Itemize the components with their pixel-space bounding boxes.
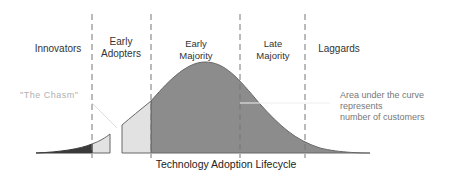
bell-curve-graphic — [0, 0, 452, 178]
diagram-title: Technology Adoption Lifecycle — [156, 158, 297, 170]
segment-label-early-majority: Early Majority — [179, 38, 212, 62]
segment-label-line: Late — [256, 38, 289, 50]
note-line: Area under the curve — [340, 90, 425, 101]
segment-label-late-majority: Late Majority — [256, 38, 289, 62]
segment-label-line: Innovators — [35, 43, 82, 55]
note-line: represents — [340, 101, 425, 112]
segment-label-laggards: Laggards — [318, 43, 360, 55]
segment-label-line: Early — [179, 38, 212, 50]
note-line: number of customers — [340, 112, 425, 123]
early-adopters-area-right — [122, 101, 151, 153]
adoption-lifecycle-diagram: Innovators Early Adopters Early Majority… — [0, 0, 452, 178]
segment-label-line: Majority — [179, 50, 212, 62]
segment-label-innovators: Innovators — [35, 43, 82, 55]
chasm-pointer-line — [92, 103, 117, 128]
segment-label-line: Laggards — [318, 43, 360, 55]
segment-label-line: Early — [101, 36, 141, 48]
area-note: Area under the curve represents number o… — [340, 90, 425, 123]
segment-label-line: Majority — [256, 50, 289, 62]
chasm-label: "The Chasm" — [20, 90, 78, 100]
segment-label-line: Adopters — [101, 48, 141, 60]
innovators-area — [36, 144, 92, 153]
early-adopters-area-left — [92, 134, 110, 153]
majority-laggards-area — [151, 62, 370, 153]
segment-label-early-adopters: Early Adopters — [101, 36, 141, 60]
